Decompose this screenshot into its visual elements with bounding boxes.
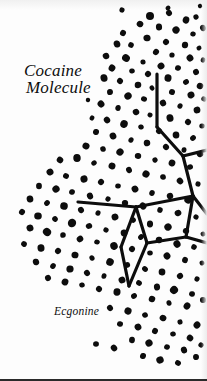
bond-pentagon-left-lower [136, 207, 147, 243]
bond-bridge-down-left [121, 207, 136, 247]
bond-bridgehead-left-arm [78, 202, 136, 207]
bond-pentagon-right [186, 196, 193, 237]
bond-stem-to-bridge [157, 127, 183, 156]
bond-bridge-apex-right [129, 243, 147, 286]
figure-title-line-1: Cocaine [24, 61, 82, 80]
artboard: CocaineMolecule Ecgonine [0, 0, 207, 381]
illustration-page: CocaineMolecule Ecgonine [0, 0, 207, 381]
bond-ring-right-upper [183, 156, 193, 196]
bond-bridge-apex-left [121, 247, 129, 286]
bond-pentagon-inner-right [147, 237, 186, 243]
bond-pentagon-top [136, 196, 193, 207]
page-right-shading [201, 0, 207, 381]
figure-title-line-2: Molecule [26, 79, 91, 96]
figure-title: CocaineMolecule [24, 62, 91, 97]
molecule-bond-structure [0, 0, 207, 381]
figure-caption-ecgonine: Ecgonine [54, 306, 99, 318]
